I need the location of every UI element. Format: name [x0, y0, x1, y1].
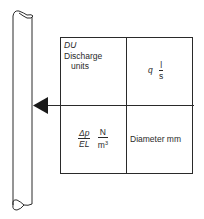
flow-rate-unit-denominator: s	[159, 71, 163, 81]
flow-rate-label: q l s	[148, 60, 163, 81]
equivalent-length-symbol: EL	[78, 139, 90, 149]
unit-exponent: 3	[105, 140, 108, 146]
pressure-drop-symbol: Δp	[78, 128, 90, 139]
unit-base: m	[98, 140, 105, 150]
discharge-units-label-line2: units	[71, 61, 89, 71]
pipe-top-break	[13, 11, 33, 18]
pipe	[13, 11, 33, 210]
flow-rate-unit: l s	[159, 60, 163, 81]
pressure-unit-denominator: m3	[98, 138, 108, 150]
discharge-units-label-line1: Discharge	[64, 51, 102, 61]
pressure-gradient-unit: N m3	[98, 127, 108, 150]
pipe-bottom-break	[13, 200, 32, 210]
flow-rate-unit-numerator: l	[159, 60, 163, 71]
arrow-left-icon	[33, 97, 48, 114]
pressure-gradient-symbol: Δp EL	[78, 128, 90, 149]
du-abbreviation: DU	[64, 40, 76, 50]
pressure-gradient-label: Δp EL N m3	[78, 127, 108, 150]
diagram-canvas	[0, 0, 204, 219]
flow-rate-symbol: q	[148, 65, 153, 75]
pressure-unit-numerator: N	[98, 127, 108, 138]
diameter-label: Diameter mm	[130, 134, 181, 144]
